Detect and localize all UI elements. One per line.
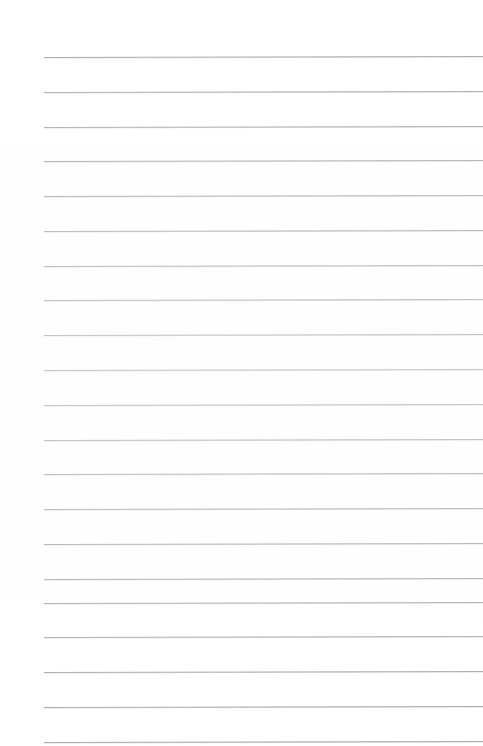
ruled-line	[44, 578, 483, 580]
ruled-line	[44, 56, 483, 58]
ruled-line	[44, 706, 483, 708]
ruled-line	[44, 543, 483, 545]
ruled-line	[44, 195, 483, 197]
ruled-line	[44, 636, 483, 638]
ruled-line	[44, 369, 483, 371]
ruled-line	[44, 265, 483, 267]
ruled-line-stack	[0, 0, 483, 746]
ruled-line	[44, 508, 483, 510]
ruled-line	[44, 126, 483, 128]
ruled-line	[44, 741, 483, 743]
ruled-line	[44, 473, 483, 475]
ruled-line	[44, 439, 483, 441]
ruled-line	[44, 230, 483, 232]
ruled-line	[44, 299, 483, 301]
ruled-line	[44, 404, 483, 406]
ruled-line	[44, 160, 483, 162]
ruled-line	[44, 334, 483, 336]
ruled-line	[44, 671, 483, 673]
notepad-page	[0, 0, 483, 746]
ruled-line	[44, 91, 483, 93]
ruled-line	[44, 602, 483, 604]
